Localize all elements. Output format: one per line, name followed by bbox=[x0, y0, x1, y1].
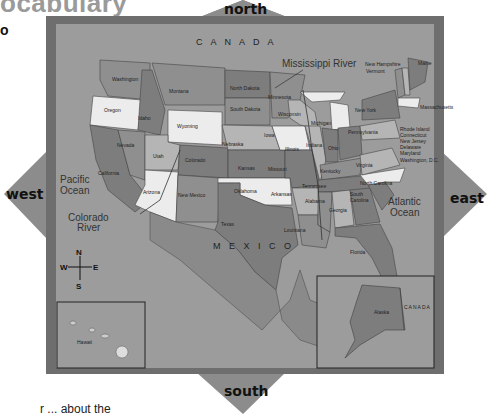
hawaii-inset bbox=[57, 302, 145, 368]
svg-text:Carolina: Carolina bbox=[350, 197, 369, 203]
svg-text:Illinois: Illinois bbox=[285, 146, 299, 152]
svg-text:Minnesota: Minnesota bbox=[268, 94, 291, 100]
svg-text:Florida: Florida bbox=[350, 249, 366, 255]
mexico-label: M E X I C O bbox=[213, 241, 294, 251]
svg-text:Michigan: Michigan bbox=[311, 120, 331, 126]
svg-text:New York: New York bbox=[355, 107, 377, 113]
svg-text:Utah: Utah bbox=[153, 153, 164, 159]
state-kansas bbox=[228, 150, 285, 178]
svg-text:New Hampshire: New Hampshire bbox=[365, 61, 401, 67]
atlantic-ocean-line1: Atlantic bbox=[388, 196, 421, 207]
svg-text:Massachusetts: Massachusetts bbox=[420, 104, 454, 110]
svg-text:Pennsylvania: Pennsylvania bbox=[348, 129, 378, 135]
svg-text:Colorado: Colorado bbox=[185, 157, 206, 163]
atlantic-ocean-line2: Ocean bbox=[390, 207, 419, 218]
pacific-ocean-line2: Ocean bbox=[60, 185, 89, 196]
svg-text:California: California bbox=[98, 170, 119, 176]
svg-text:Montana: Montana bbox=[169, 88, 189, 94]
alaska-inset bbox=[317, 276, 434, 368]
colorado-river-line2: River bbox=[77, 222, 101, 233]
alaska-label: Alaska bbox=[374, 309, 389, 315]
state-montana bbox=[152, 63, 225, 105]
compass-s: S bbox=[76, 282, 82, 291]
svg-text:Oregon: Oregon bbox=[104, 107, 121, 113]
svg-text:Vermont: Vermont bbox=[366, 68, 385, 74]
svg-text:Georgia: Georgia bbox=[329, 207, 347, 213]
svg-text:Idaho: Idaho bbox=[138, 115, 151, 121]
svg-text:Kansas: Kansas bbox=[238, 165, 255, 171]
svg-text:Tennessee: Tennessee bbox=[302, 183, 326, 189]
west-label: west bbox=[6, 186, 44, 202]
svg-text:Missouri: Missouri bbox=[268, 166, 287, 172]
alaska-canada-label: CANADA bbox=[404, 304, 431, 310]
svg-text:Arizona: Arizona bbox=[143, 189, 160, 195]
state-new-mexico bbox=[176, 175, 220, 222]
svg-text:South Dakota: South Dakota bbox=[230, 106, 261, 112]
state-oregon bbox=[90, 96, 142, 130]
svg-text:North Carolina: North Carolina bbox=[360, 180, 392, 186]
svg-text:Alabama: Alabama bbox=[305, 198, 325, 204]
compass-e: E bbox=[93, 263, 99, 272]
hawaii-label: Hawaii bbox=[77, 339, 92, 345]
us-map: N S W E north west east south C A N A D … bbox=[0, 0, 487, 414]
svg-text:Ohio: Ohio bbox=[328, 145, 339, 151]
footer-text-fragment: r ... about the bbox=[40, 402, 111, 414]
svg-text:Washington, D.C.: Washington, D.C. bbox=[400, 157, 439, 163]
canada-label: C A N A D A bbox=[196, 37, 277, 47]
east-label: east bbox=[450, 190, 484, 206]
pacific-ocean-line1: Pacific bbox=[60, 174, 89, 185]
svg-text:Kentucky: Kentucky bbox=[320, 168, 341, 174]
svg-text:North Dakota: North Dakota bbox=[230, 85, 260, 91]
svg-text:Nebraska: Nebraska bbox=[222, 141, 244, 147]
svg-text:Washington: Washington bbox=[112, 76, 138, 82]
compass-n: N bbox=[76, 248, 82, 257]
svg-text:New Mexico: New Mexico bbox=[178, 192, 205, 198]
svg-text:Oklahoma: Oklahoma bbox=[234, 188, 257, 194]
svg-text:Wisconsin: Wisconsin bbox=[278, 111, 301, 117]
south-label: south bbox=[224, 383, 269, 399]
state-north-dakota bbox=[225, 70, 270, 98]
north-label: north bbox=[224, 1, 267, 17]
svg-text:Louisiana: Louisiana bbox=[284, 227, 306, 233]
svg-text:Iowa: Iowa bbox=[264, 132, 275, 138]
svg-text:Wyoming: Wyoming bbox=[177, 123, 198, 129]
svg-text:Arkansas: Arkansas bbox=[271, 191, 292, 197]
svg-text:Indiana: Indiana bbox=[306, 142, 323, 148]
svg-text:Nevada: Nevada bbox=[117, 142, 134, 148]
compass-w: W bbox=[60, 263, 68, 272]
svg-text:Maine: Maine bbox=[418, 60, 432, 66]
mississippi-river-label: Mississippi River bbox=[282, 58, 357, 69]
state-michigan bbox=[330, 102, 350, 130]
svg-text:Virginia: Virginia bbox=[356, 162, 373, 168]
state-massachusetts bbox=[398, 98, 420, 108]
svg-text:Texas: Texas bbox=[221, 221, 235, 227]
svg-text:Maryland: Maryland bbox=[400, 150, 421, 156]
